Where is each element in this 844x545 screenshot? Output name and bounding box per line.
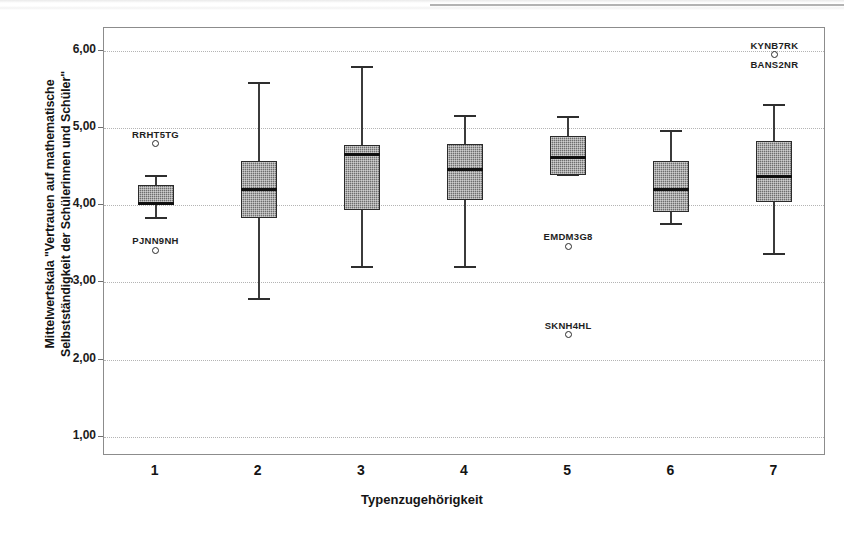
x-tick-label-6: 6 [640, 462, 700, 478]
whisker-upper [361, 67, 363, 146]
whisker-upper [155, 176, 157, 184]
y-tick-label: 3,00 [48, 273, 96, 287]
median-line [653, 188, 689, 191]
boxplot-group-5: EMDM3G8SKNH4HL [517, 28, 620, 454]
y-tick-label: 5,00 [48, 119, 96, 133]
cap-lower [248, 298, 270, 300]
scan-artifact-rule [430, 4, 844, 6]
x-tick-label-1: 1 [125, 462, 185, 478]
median-line [550, 156, 586, 159]
boxplot-group-6 [620, 28, 723, 454]
x-axis-title: Typenzugehörigkeit [0, 492, 844, 507]
whisker-lower [464, 200, 466, 267]
cap-upper [454, 115, 476, 117]
y-tick-label: 2,00 [48, 351, 96, 365]
y-tick-label: 4,00 [48, 196, 96, 210]
cap-upper [145, 175, 167, 177]
boxplot-group-3 [310, 28, 413, 454]
box-iqr [447, 144, 483, 200]
y-tick-mark [98, 50, 103, 51]
whisker-upper [258, 83, 260, 161]
outlier-point [565, 243, 572, 250]
outlier-point [152, 247, 159, 254]
outlier-point [771, 51, 778, 58]
cap-lower [763, 253, 785, 255]
boxplot-group-7: KYNB7RKBANS2NR [723, 28, 826, 454]
x-tick-label-4: 4 [434, 462, 494, 478]
cap-lower [660, 223, 682, 225]
whisker-upper [567, 117, 569, 136]
x-tick-label-2: 2 [228, 462, 288, 478]
cap-lower [351, 266, 373, 268]
box-iqr [756, 141, 792, 202]
outlier-point [152, 140, 159, 147]
cap-lower [145, 217, 167, 219]
median-line [241, 188, 277, 191]
boxplot-figure: Mittelwertskala "Vertrauen auf mathemati… [0, 0, 844, 545]
outlier-label: PJNN9NH [86, 235, 226, 246]
outlier-label: KYNB7RK [704, 40, 844, 51]
whisker-lower [361, 210, 363, 267]
cap-upper [351, 66, 373, 68]
plot-area: RRHT5TGPJNN9NHEMDM3G8SKNH4HLKYNB7RKBANS2… [103, 27, 825, 455]
boxplot-group-1: RRHT5TGPJNN9NH [104, 28, 207, 454]
x-tick-label-3: 3 [331, 462, 391, 478]
cap-upper [557, 116, 579, 118]
y-tick-mark [98, 436, 103, 437]
outlier-label: SKNH4HL [498, 320, 638, 331]
x-tick-label-5: 5 [537, 462, 597, 478]
y-tick-mark [98, 204, 103, 205]
whisker-upper [670, 131, 672, 160]
whisker-upper [464, 116, 466, 145]
cap-upper [248, 82, 270, 84]
outlier-label: EMDM3G8 [498, 231, 638, 242]
boxplot-group-2 [207, 28, 310, 454]
outlier-point [565, 331, 572, 338]
y-tick-mark [98, 281, 103, 282]
median-line [344, 153, 380, 156]
whisker-lower [773, 202, 775, 254]
box-iqr [653, 161, 689, 213]
whisker-upper [773, 105, 775, 140]
median-line [756, 175, 792, 178]
whisker-lower [258, 218, 260, 298]
outlier-label-secondary: BANS2NR [704, 59, 844, 70]
y-tick-mark [98, 127, 103, 128]
cap-upper [763, 104, 785, 106]
median-line [447, 168, 483, 171]
y-tick-label: 6,00 [48, 42, 96, 56]
y-tick-label: 1,00 [48, 428, 96, 442]
y-tick-mark [98, 359, 103, 360]
cap-upper [660, 130, 682, 132]
cap-lower [454, 266, 476, 268]
median-line [138, 202, 174, 205]
outlier-label: RRHT5TG [86, 129, 226, 140]
x-tick-label-7: 7 [743, 462, 803, 478]
